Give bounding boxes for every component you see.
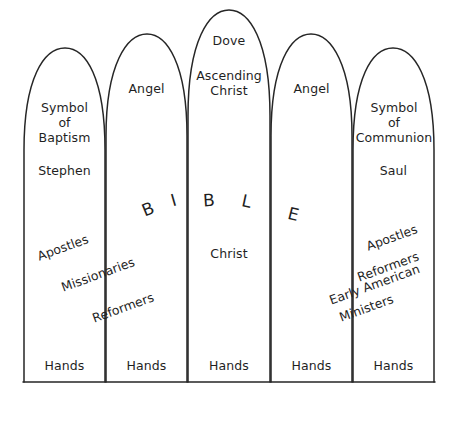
panel-3-ascending-christ-label: Ascending Christ: [188, 68, 270, 98]
panel-5-person-label: Saul: [353, 163, 434, 178]
panel-2-hands-label: Hands: [106, 358, 187, 373]
panel-3-christ-mid-label: Christ: [188, 246, 270, 261]
bible-letter-b2: B: [202, 190, 215, 211]
panel-3-outline: [188, 10, 270, 382]
panel-1-hands-label: Hands: [24, 358, 105, 373]
panel-5-hands-label: Hands: [353, 358, 434, 373]
panel-5-symbol-line1: Symbol: [351, 100, 437, 115]
church-window-diagram: Symbol of Baptism Stephen Hands Angel Ha…: [0, 0, 457, 428]
panel-1-symbol-line3: Baptism: [24, 130, 105, 145]
panel-5-outline: [353, 48, 434, 382]
panel-2-angel-label: Angel: [106, 81, 187, 96]
panel-5-symbol-label: Symbol of Communion: [351, 100, 437, 145]
panel-1-person-label: Stephen: [24, 163, 105, 178]
panel-5-symbol-line3: Communion: [351, 130, 437, 145]
panel-3-hands-label: Hands: [188, 358, 270, 373]
panel-1-symbol-line1: Symbol: [24, 100, 105, 115]
panel-4-angel-label: Angel: [271, 81, 352, 96]
panel-3-dove-label: Dove: [188, 33, 270, 48]
panel-3-christ-line: Christ: [188, 83, 270, 98]
panel-3-ascending-line: Ascending: [188, 68, 270, 83]
panel-1-symbol-label: Symbol of Baptism: [24, 100, 105, 145]
panel-4-hands-label: Hands: [271, 358, 352, 373]
panel-1-symbol-line2: of: [24, 115, 105, 130]
panel-1-outline: [24, 48, 105, 382]
panel-5-symbol-line2: of: [351, 115, 437, 130]
